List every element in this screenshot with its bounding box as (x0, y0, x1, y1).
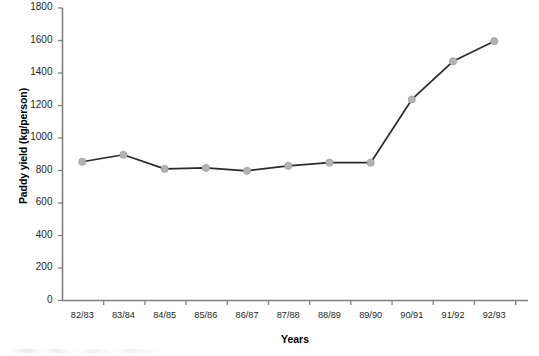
data-line (82, 41, 494, 171)
paddy-yield-line-chart: Paddy yield (kg/person) 0200400600800100… (0, 0, 539, 356)
data-point-marker (367, 159, 374, 166)
data-point-marker (120, 151, 127, 158)
data-point-marker (326, 159, 333, 166)
scan-artifact (10, 349, 160, 353)
data-point-marker (202, 164, 209, 171)
data-point-marker (408, 96, 415, 103)
data-point-marker (449, 58, 456, 65)
data-point-markers (79, 38, 498, 175)
plot-area (0, 0, 539, 356)
data-point-marker (243, 167, 250, 174)
axis-lines (63, 8, 529, 301)
data-point-marker (79, 158, 86, 165)
data-point-marker (161, 165, 168, 172)
data-point-marker (285, 162, 292, 169)
data-point-marker (491, 38, 498, 45)
x-axis-title: Years (60, 333, 530, 345)
